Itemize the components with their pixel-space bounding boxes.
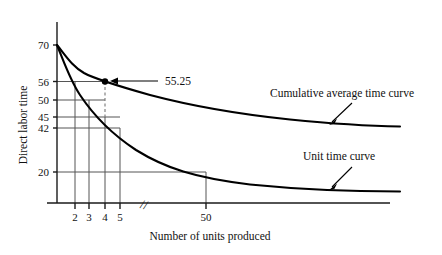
annotation-55-25: 55.25 <box>110 75 191 87</box>
chart-canvas: 70 56 50 45 42 20 2 3 4 5 50 // 55.25 <box>0 0 442 255</box>
axis-break-mark: // <box>139 196 150 212</box>
y-tick-label-56: 56 <box>38 76 50 88</box>
y-tick-label-50: 50 <box>38 94 50 106</box>
x-tick-label-50: 50 <box>201 211 213 223</box>
annotation-value-label: 55.25 <box>165 75 191 87</box>
datapoint-marker-55-25 <box>102 78 108 84</box>
y-tick-label-42: 42 <box>38 122 49 134</box>
x-axis-title: Number of units produced <box>149 230 270 243</box>
cumulative-curve-label: Cumulative average time curve <box>270 87 414 100</box>
x-tick-label-4: 4 <box>102 211 108 223</box>
x-tick-label-3: 3 <box>86 211 92 223</box>
y-tick-label-70: 70 <box>38 39 50 51</box>
unit-time-curve <box>57 45 400 192</box>
y-axis-title: Direct labor time <box>17 86 29 165</box>
y-tick-labels: 70 56 50 45 42 20 <box>38 39 50 178</box>
cumulative-curve-leader-line <box>332 103 352 122</box>
x-tick-label-5: 5 <box>117 211 123 223</box>
learning-curve-chart: 70 56 50 45 42 20 2 3 4 5 50 // 55.25 <box>0 0 442 255</box>
cumulative-average-time-curve <box>57 45 400 127</box>
x-tick-label-2: 2 <box>72 211 78 223</box>
y-tick-label-20: 20 <box>38 166 50 178</box>
unit-curve-callout: Unit time curve <box>303 150 375 190</box>
unit-curve-arrowhead-icon <box>329 184 337 191</box>
unit-curve-leader-line <box>332 167 352 187</box>
x-tick-labels: 2 3 4 5 50 <box>72 211 212 223</box>
unit-curve-label: Unit time curve <box>303 150 375 162</box>
